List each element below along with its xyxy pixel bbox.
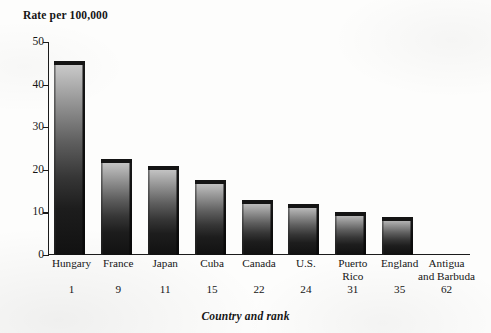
bar-slot xyxy=(189,42,236,255)
bar-top-face xyxy=(101,159,132,163)
bar-series xyxy=(48,42,470,255)
category-axis-labels: Hungary1France9Japan11Cuba15Canada22U.S.… xyxy=(48,257,470,307)
bar-top-face xyxy=(288,204,319,208)
bar-slot xyxy=(236,42,283,255)
bar-england[interactable] xyxy=(382,217,413,255)
bar-slot xyxy=(48,42,95,255)
bar-slot xyxy=(282,42,329,255)
bar-slot xyxy=(142,42,189,255)
y-axis-title: Rate per 100,000 xyxy=(23,9,108,21)
category-label: Antigua and Barbuda62 xyxy=(416,257,478,295)
bar-slot xyxy=(329,42,376,255)
tick-label: 40 xyxy=(33,79,45,91)
bar-slot xyxy=(376,42,423,255)
plot-area: 01020304050 xyxy=(48,42,470,255)
bar-puerto-rico[interactable] xyxy=(335,212,366,255)
bar-top-face xyxy=(148,166,179,170)
bar-france[interactable] xyxy=(101,159,132,255)
bar-cuba[interactable] xyxy=(195,180,226,255)
bar-top-face xyxy=(54,61,85,65)
tick-label: 10 xyxy=(33,207,45,219)
bar-top-face xyxy=(242,200,273,204)
category-rank: 62 xyxy=(416,283,478,296)
bar-top-face xyxy=(195,180,226,184)
bar-japan[interactable] xyxy=(148,166,179,255)
tick-label: 30 xyxy=(33,121,45,133)
bar-u.s.[interactable] xyxy=(288,204,319,255)
tick-label: 50 xyxy=(33,36,45,48)
bar-canada[interactable] xyxy=(242,200,273,255)
bar-hungary[interactable] xyxy=(54,61,85,255)
x-axis-title: Country and rank xyxy=(0,310,491,322)
bar-top-face xyxy=(335,212,366,216)
bar-slot xyxy=(95,42,142,255)
tick-label: 20 xyxy=(33,164,45,176)
bar-slot xyxy=(423,42,470,255)
category-name: Antigua and Barbuda xyxy=(416,257,478,282)
bar-top-face xyxy=(382,217,413,221)
chart-canvas: Rate per 100,000 01020304050 Hungary1Fra… xyxy=(0,0,491,333)
